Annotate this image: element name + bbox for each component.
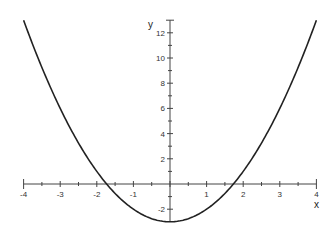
y-axis: -224681012 <box>156 20 174 222</box>
y-tick-label: 6 <box>161 104 166 113</box>
function-plot: -4-3-2-11234 -224681012 x y <box>0 0 336 233</box>
x-tick-label: -3 <box>57 190 65 199</box>
y-tick-label: 4 <box>161 130 166 139</box>
x-tick-label: 2 <box>241 190 246 199</box>
x-tick-label: 4 <box>314 190 319 199</box>
x-tick-label: -4 <box>20 190 28 199</box>
y-tick-label: 2 <box>161 155 166 164</box>
y-axis-label: y <box>148 19 153 30</box>
x-tick-label: -1 <box>130 190 138 199</box>
x-tick-label: -2 <box>93 190 101 199</box>
y-tick-label: 12 <box>156 29 165 38</box>
y-tick-label: -2 <box>158 205 166 214</box>
x-tick-label: 1 <box>204 190 209 199</box>
y-tick-label: 10 <box>156 54 165 63</box>
x-tick-label: 3 <box>278 190 283 199</box>
y-tick-label: 8 <box>161 79 166 88</box>
x-axis-label: x <box>314 199 319 210</box>
